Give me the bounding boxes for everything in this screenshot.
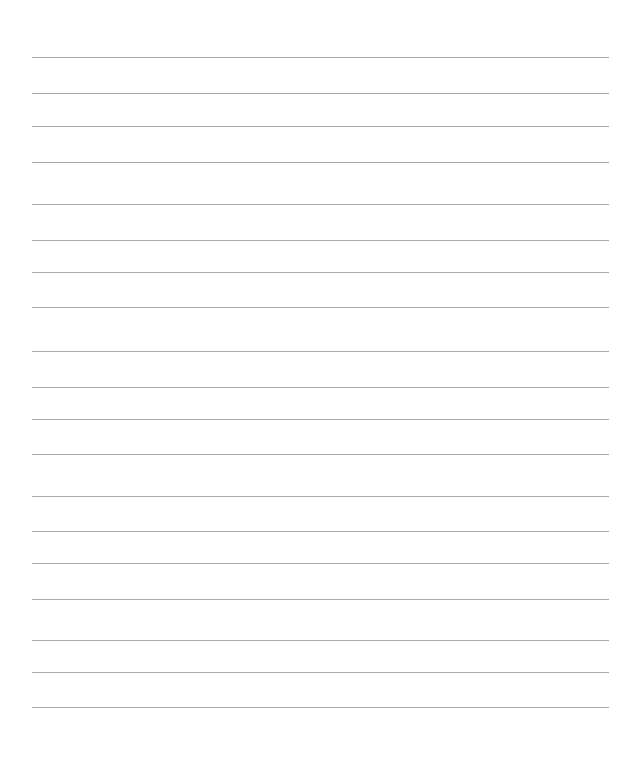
ruled-line — [32, 387, 609, 388]
ruled-line — [32, 162, 609, 163]
ruled-line — [32, 272, 609, 273]
ruled-line — [32, 93, 609, 94]
ruled-line — [32, 57, 609, 58]
ruled-line — [32, 672, 609, 673]
ruled-line — [32, 563, 609, 564]
ruled-line — [32, 126, 609, 127]
ruled-line — [32, 419, 609, 420]
lined-paper-page — [0, 0, 641, 763]
ruled-line — [32, 351, 609, 352]
ruled-line — [32, 204, 609, 205]
ruled-line — [32, 707, 609, 708]
ruled-line — [32, 307, 609, 308]
ruled-line — [32, 496, 609, 497]
ruled-line — [32, 531, 609, 532]
ruled-line — [32, 640, 609, 641]
ruled-line — [32, 454, 609, 455]
ruled-line — [32, 599, 609, 600]
ruled-line — [32, 240, 609, 241]
